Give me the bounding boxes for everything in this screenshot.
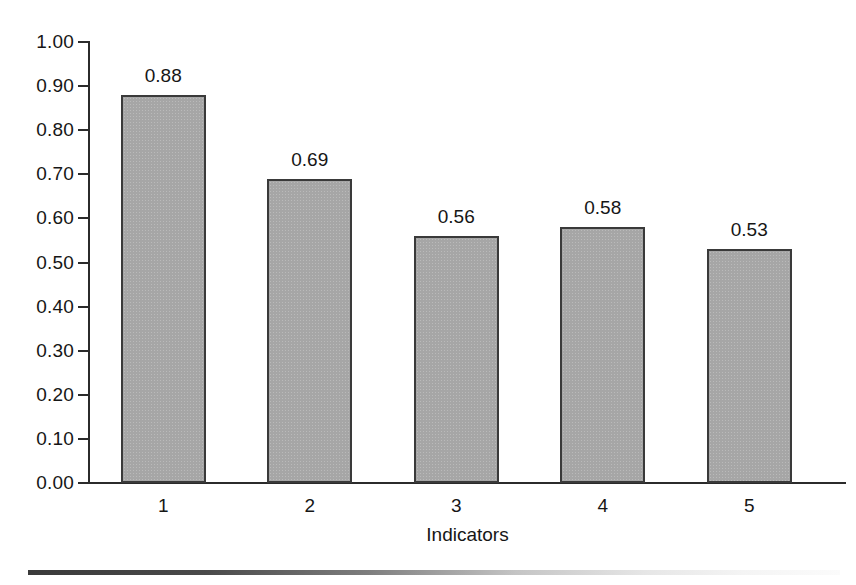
y-axis-tick-label: 0.20: [0, 385, 74, 404]
x-axis-title: Indicators: [89, 524, 846, 546]
y-axis-tick: [78, 217, 89, 219]
y-axis-tick-label: 0.70: [0, 164, 74, 183]
bar[interactable]: [267, 179, 352, 483]
y-axis-tick: [78, 85, 89, 87]
bar-value-label: 0.88: [99, 66, 228, 85]
y-axis-tick-label-text: 0.10: [6, 429, 74, 448]
y-axis-tick: [78, 306, 89, 308]
y-axis-tick: [78, 262, 89, 264]
bar-group: 0.56: [414, 42, 499, 483]
y-axis-tick: [78, 438, 89, 440]
y-axis-tick-label-text: 0.60: [6, 208, 74, 227]
y-axis-tick-label-text: 0.70: [6, 164, 74, 183]
bar-value-label: 0.53: [685, 220, 814, 239]
y-axis-tick-label: 1.00: [0, 32, 74, 51]
plot-area: 0.880.690.560.580.53: [89, 42, 846, 483]
y-axis-tick-label-text: 1.00: [6, 32, 74, 51]
bar[interactable]: [414, 236, 499, 483]
bar-chart-figure: 1.000.900.800.700.600.500.400.300.200.10…: [0, 0, 856, 585]
bar-group: 0.58: [560, 42, 645, 483]
x-axis-tick-label: 5: [685, 495, 814, 517]
x-axis-tick-label: 2: [245, 495, 374, 517]
bar-value-label: 0.58: [538, 198, 667, 217]
bar-group: 0.88: [121, 42, 206, 483]
bar[interactable]: [560, 227, 645, 483]
y-axis-tick-label: 0.90: [0, 76, 74, 95]
y-axis-tick-label-text: 0.80: [6, 120, 74, 139]
bar[interactable]: [707, 249, 792, 483]
y-axis-tick: [78, 350, 89, 352]
y-axis-tick-label: 0.10: [0, 429, 74, 448]
x-axis-tick-label: 3: [392, 495, 521, 517]
y-axis-tick-label: 0.00: [0, 473, 74, 492]
y-axis-tick-label: 0.80: [0, 120, 74, 139]
y-axis-tick-label: 0.50: [0, 253, 74, 272]
y-axis-tick-label-text: 0.40: [6, 297, 74, 316]
y-axis-tick-label-text: 0.30: [6, 341, 74, 360]
y-axis-tick: [78, 129, 89, 131]
y-axis-tick: [78, 394, 89, 396]
bar-value-label: 0.69: [245, 150, 374, 169]
y-axis-tick-label-text: 0.50: [6, 253, 74, 272]
x-axis-tick-label: 4: [538, 495, 667, 517]
y-axis-tick-label-text: 0.20: [6, 385, 74, 404]
y-axis-tick-label: 0.30: [0, 341, 74, 360]
y-axis-tick-label: 0.60: [0, 208, 74, 227]
y-axis-tick: [78, 41, 89, 43]
x-axis-tick-label: 1: [99, 495, 228, 517]
y-axis-tick-label-text: 0.90: [6, 76, 74, 95]
page-divider-rule: [28, 570, 840, 575]
y-axis-tick: [78, 173, 89, 175]
y-axis-tick: [78, 482, 89, 484]
bar[interactable]: [121, 95, 206, 483]
bar-group: 0.69: [267, 42, 352, 483]
bar-value-label: 0.56: [392, 207, 521, 226]
y-axis-tick-label: 0.40: [0, 297, 74, 316]
bar-group: 0.53: [707, 42, 792, 483]
y-axis-tick-label-text: 0.00: [6, 473, 74, 492]
